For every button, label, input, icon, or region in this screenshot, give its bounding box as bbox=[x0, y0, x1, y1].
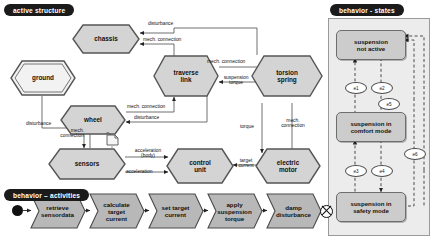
activity-2-label-2: target bbox=[108, 208, 125, 215]
activity-final-node bbox=[320, 205, 333, 218]
state-2-label-1: suspension in bbox=[351, 120, 392, 127]
activity-damp-disturbance[interactable]: damp disturbance bbox=[266, 193, 321, 229]
node-electric-motor-label-1: electric bbox=[277, 159, 299, 166]
node-electric-motor-label-2: motor bbox=[279, 166, 297, 173]
section-label-behavior-activities: behavior – activities bbox=[4, 189, 89, 201]
edge-label-acceleration-body-2: (body) bbox=[141, 153, 155, 158]
activity-1-label-1: retrieve bbox=[46, 204, 68, 211]
node-control-unit[interactable]: control unit bbox=[166, 148, 234, 184]
node-torsion-spring-label-2: spring bbox=[277, 76, 297, 83]
activity-4-label-3: torque bbox=[225, 215, 244, 222]
activity-5-label-1: damp bbox=[285, 204, 302, 211]
edge-label-acceleration: acceleration bbox=[126, 169, 152, 174]
edge-label-acceleration-body: acceleration (body) bbox=[126, 148, 170, 159]
edge-label-disturbance-ground-wheel: disturbance bbox=[26, 121, 51, 126]
edge-label-mech-wheel-sensors-2: connection bbox=[60, 133, 84, 138]
edge-label-target-current-1: target bbox=[240, 158, 253, 163]
edge-label-acceleration-body-1: acceleration bbox=[135, 148, 161, 153]
node-chassis[interactable]: chassis bbox=[72, 24, 140, 54]
event-e3[interactable]: e3 bbox=[345, 165, 367, 177]
node-control-unit-label-2: unit bbox=[194, 166, 206, 173]
edge-label-target-current-2: current bbox=[238, 163, 253, 168]
node-torsion-spring[interactable]: torsion spring bbox=[251, 55, 323, 97]
event-e4[interactable]: e4 bbox=[371, 165, 393, 177]
state-suspension-safety-mode[interactable]: suspension in safety mode bbox=[336, 192, 406, 222]
state-2-label-2: comfort mode bbox=[351, 127, 392, 134]
edge-label-torque: torque bbox=[240, 124, 254, 129]
activity-initial-node bbox=[12, 205, 23, 216]
section-label-behavior-states: behavior - states bbox=[330, 4, 404, 16]
activity-apply-suspension-torque[interactable]: apply suspension torque bbox=[207, 193, 262, 229]
state-1-label-2: not active bbox=[357, 45, 385, 52]
node-electric-motor[interactable]: electric motor bbox=[255, 148, 321, 184]
node-ground-label: ground bbox=[32, 74, 54, 81]
node-sensors-label: sensors bbox=[75, 160, 100, 167]
edge-label-mech-connection-wheel-traverse: mech. connection bbox=[127, 104, 165, 109]
edge-label-mech-connection-chassis: mech. connection bbox=[143, 37, 181, 42]
edge-label-mech-motor-2: connection bbox=[281, 123, 305, 128]
activity-1-label-2: sensordata bbox=[41, 211, 74, 218]
event-e6[interactable]: e6 bbox=[404, 148, 426, 160]
note-icon bbox=[104, 131, 120, 151]
edge-label-target-current: target current bbox=[234, 158, 258, 169]
edge-label-mech-motor-1: mech. bbox=[286, 118, 299, 123]
activity-2-label-3: current bbox=[106, 215, 127, 222]
event-e5[interactable]: e5 bbox=[378, 98, 400, 110]
node-control-unit-label-1: control bbox=[189, 159, 211, 166]
diagram-canvas: active structure behavior – activities b… bbox=[0, 0, 433, 238]
edge-label-mech-wheel-sensors-1: mech. bbox=[71, 128, 84, 133]
edge-label-mech-connection-wheel-sensors: mech. connection bbox=[46, 128, 84, 139]
edge-label-suspension-torque-2: torque bbox=[229, 80, 243, 85]
activity-3-label-2: current bbox=[165, 211, 186, 218]
node-wheel-label: wheel bbox=[84, 116, 102, 123]
node-torsion-spring-label-1: torsion bbox=[276, 69, 298, 76]
edge-label-disturbance-wheel: disturbance bbox=[134, 115, 159, 120]
edge-label-suspension-torque: suspension torque bbox=[213, 75, 259, 86]
node-traverse-link-label-1: traverse bbox=[174, 69, 199, 76]
state-3-label-2: safety mode bbox=[353, 207, 389, 214]
activity-3-label-1: set target bbox=[162, 204, 190, 211]
state-suspension-not-active[interactable]: suspension not active bbox=[336, 30, 406, 60]
activity-4-label-1: apply bbox=[226, 201, 242, 208]
state-1-label-1: suspension bbox=[354, 38, 388, 45]
activity-4-label-2: suspension bbox=[217, 208, 251, 215]
edge-label-suspension-torque-1: suspension bbox=[224, 75, 249, 80]
event-e1[interactable]: e1 bbox=[345, 82, 367, 94]
activity-5-label-2: disturbance bbox=[276, 211, 311, 218]
node-traverse-link-label-2: link bbox=[180, 76, 191, 83]
activity-2-label-1: calculate bbox=[103, 201, 129, 208]
event-e2[interactable]: e2 bbox=[371, 82, 393, 94]
node-ground[interactable]: ground bbox=[10, 60, 76, 96]
activity-calculate-target-current[interactable]: calculate target current bbox=[89, 193, 144, 229]
node-sensors[interactable]: sensors bbox=[48, 148, 126, 180]
activity-set-target-current[interactable]: set target current bbox=[148, 193, 203, 229]
state-suspension-comfort-mode[interactable]: suspension in comfort mode bbox=[336, 112, 406, 142]
edge-label-mech-connection-motor: mech. connection bbox=[272, 118, 314, 129]
state-3-label-1: suspension in bbox=[351, 200, 392, 207]
node-chassis-label: chassis bbox=[94, 35, 117, 42]
section-label-active-structure: active structure bbox=[4, 4, 74, 16]
edge-label-disturbance-chassis: disturbance bbox=[148, 21, 173, 26]
edge-label-mech-connection-traverse-torsion: mech. connection bbox=[207, 59, 245, 64]
